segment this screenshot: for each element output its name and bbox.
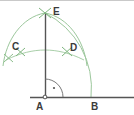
right-angle-dot <box>53 87 55 89</box>
point-label-A: A <box>36 102 43 112</box>
point-label-C: C <box>12 42 19 52</box>
geometry-figure <box>0 0 134 115</box>
point-label-D: D <box>70 43 77 53</box>
diagram-canvas: E C D A B <box>0 0 134 115</box>
point-label-E: E <box>53 7 60 17</box>
point-label-B: B <box>91 102 98 112</box>
intersection-mark-left <box>4 54 13 62</box>
vertex-dot-A <box>43 95 47 99</box>
